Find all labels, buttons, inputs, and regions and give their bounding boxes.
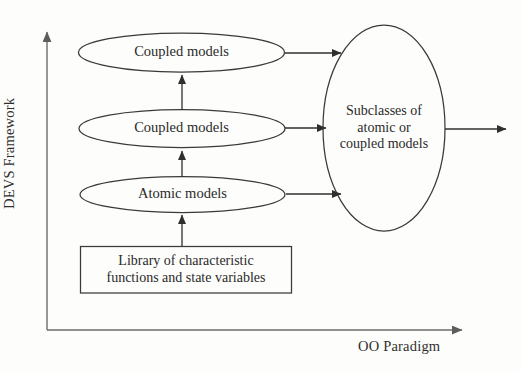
devs-framework-diagram: Coupled models Coupled models Atomic mod… <box>0 0 521 372</box>
top-ellipse-shape <box>79 33 285 72</box>
axis-group <box>47 32 462 330</box>
library-box-shape <box>81 247 292 294</box>
subclasses-ellipse-shape <box>323 25 445 231</box>
middle-ellipse-shape <box>79 110 285 148</box>
bottom-ellipse-shape <box>80 177 285 213</box>
x-axis-label: OO Paradigm <box>358 338 440 355</box>
y-axis-label: DEVS Framework <box>1 98 18 209</box>
diagram-canvas <box>0 0 521 372</box>
